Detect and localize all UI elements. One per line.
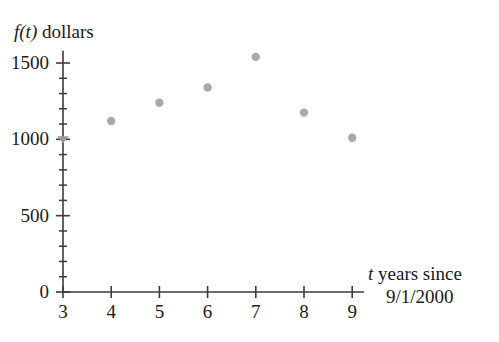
x-axis-title: t years since 9/1/2000 [368,262,462,308]
x-tick-label: 7 [251,301,261,323]
data-point [107,117,115,125]
axes-group [63,51,364,292]
y-tick-label: 1500 [0,52,49,74]
data-point [300,108,308,116]
data-points-group [107,53,356,142]
y-tick-label: 0 [0,281,49,303]
scatter-plot-figure: f(t) dollars t years since 9/1/2000 0500… [0,0,499,342]
x-tick-label: 4 [106,301,116,323]
ticks-group [56,63,352,298]
data-point [252,53,260,61]
x-tick-label: 3 [58,301,68,323]
x-axis-date: 9/1/2000 [368,285,462,308]
x-tick-label: 5 [155,301,165,323]
x-tick-label: 8 [299,301,309,323]
y-axis-unit: dollars [37,21,93,42]
x-tick-label: 9 [347,301,357,323]
y-tick-label: 500 [0,205,49,227]
x-tick-label: 6 [203,301,213,323]
data-point [155,98,163,106]
x-axis-unit: years since [373,263,462,284]
y-axis-title: f(t) dollars [14,20,94,43]
y-axis-variable: f(t) [14,21,37,42]
data-point [348,134,356,142]
data-point [203,83,211,91]
y-tick-label: 1000 [0,128,49,150]
